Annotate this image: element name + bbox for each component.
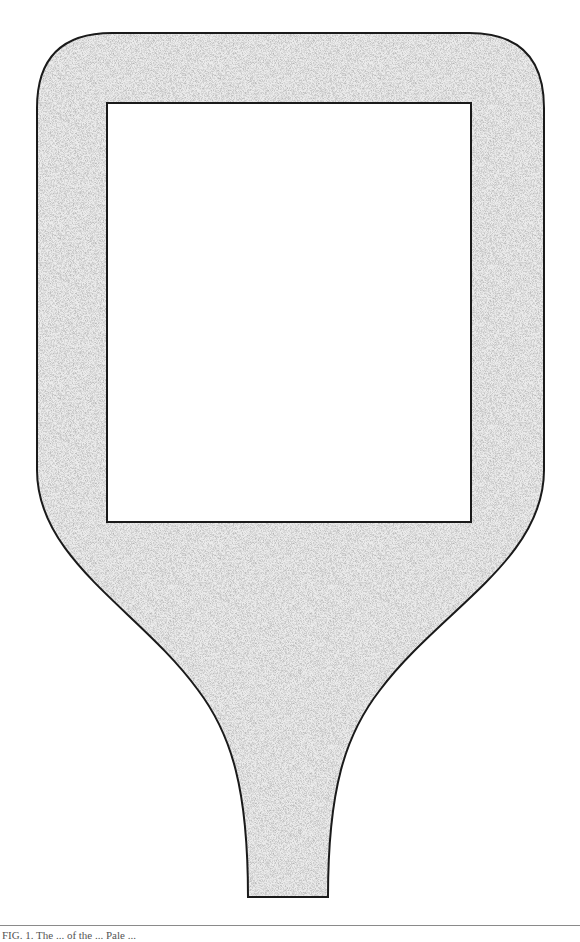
figure-caption: FIG. 1. The ... of the ... Pale ... [2,928,578,942]
caption-divider [0,925,580,926]
window-opening [107,103,471,522]
paddle-figure [0,0,580,920]
